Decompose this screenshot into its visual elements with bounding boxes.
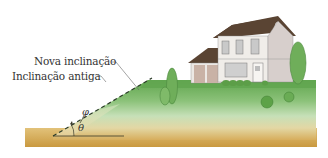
garage-door-2 [207, 65, 218, 83]
bay-window [225, 63, 247, 77]
front-door [253, 63, 263, 82]
garage-roof [188, 48, 220, 63]
hedge-2 [229, 80, 237, 86]
old-slope-label: Inclinação antiga [12, 70, 101, 82]
window-2 [236, 40, 243, 54]
hedge-1 [222, 80, 230, 86]
window-1 [222, 41, 229, 54]
theta-symbol: θ [78, 122, 84, 133]
arc-arrow [70, 121, 73, 125]
tree-left-short [160, 87, 170, 105]
hedge-5 [262, 81, 268, 86]
phi-symbol: φ [82, 106, 89, 117]
new-slope-label: Nova inclinação [34, 55, 116, 67]
bush-1 [261, 96, 273, 108]
tree-right [290, 42, 306, 84]
bush-2 [284, 92, 294, 102]
hill [53, 80, 316, 140]
slope-diagram: Nova inclinação Inclinação antiga φ θ [0, 0, 328, 158]
door-window [255, 66, 260, 71]
hedge-4 [243, 80, 251, 86]
window-3 [251, 39, 259, 54]
hedge-3 [236, 80, 244, 86]
garage-door-1 [194, 65, 205, 83]
house-roof-main [213, 17, 278, 38]
